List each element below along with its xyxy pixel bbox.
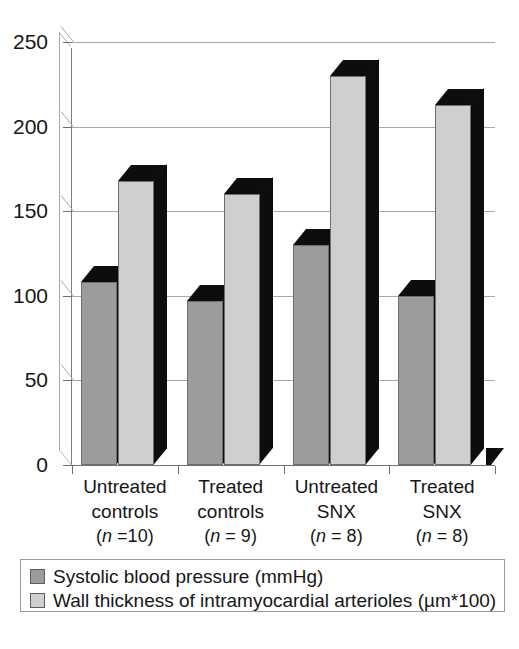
legend-label: Systolic blood pressure (mmHg): [53, 567, 323, 586]
bar-1-untreated-controls: [81, 266, 117, 465]
bar-side-face: [260, 177, 274, 465]
bar-1-untreated-snx: [293, 229, 329, 465]
bar-front-face: [398, 296, 434, 465]
legend-item-2[interactable]: Wall thickness of intramyocardial arteri…: [30, 588, 496, 612]
bar-top-face: [435, 89, 485, 106]
x-category-label-1: Untreatedcontrols(n =10): [72, 474, 178, 549]
x-category-sample-size: (n = 8): [284, 524, 390, 549]
bar-front-face: [187, 301, 223, 465]
x-category-line2: controls: [72, 499, 178, 524]
bar-2-untreated-controls: [118, 165, 154, 465]
bar-top-face: [224, 178, 274, 195]
chart-legend: Systolic blood pressure (mmHg)Wall thick…: [20, 559, 505, 612]
y-tick-label-250: 250: [0, 31, 48, 52]
x-category-sample-size: (n =10): [72, 524, 178, 549]
bar-front-face: [330, 76, 366, 465]
bar-front-face: [224, 194, 260, 465]
bar-1-treated-controls: [187, 285, 223, 465]
bar-2-untreated-snx: [330, 60, 366, 465]
x-category-line1: Untreated: [72, 474, 178, 499]
x-category-line1: Untreated: [284, 474, 390, 499]
plot-area: [72, 42, 495, 465]
legend-label: Wall thickness of intramyocardial arteri…: [53, 591, 496, 610]
bar-top-face: [118, 165, 168, 182]
y-tick-label-200: 200: [0, 116, 48, 137]
x-axis-tick-0: [72, 466, 73, 474]
x-category-label-3: UntreatedSNX(n = 8): [284, 474, 390, 549]
chart-figure: 050100150200250 Untreatedcontrols(n =10)…: [0, 0, 519, 649]
x-axis-end-wedge: [486, 448, 508, 468]
bar-2-treated-snx: [435, 89, 471, 465]
bar-front-face: [293, 245, 329, 465]
y-tick-label-0: 0: [0, 454, 48, 475]
y-tick-label-100: 100: [0, 285, 48, 306]
x-category-line2: controls: [178, 499, 284, 524]
x-category-line1: Treated: [389, 474, 495, 499]
x-category-line1: Treated: [178, 474, 284, 499]
x-category-line2: SNX: [389, 499, 495, 524]
x-category-sample-size: (n = 8): [389, 524, 495, 549]
bar-front-face: [81, 282, 117, 465]
legend-swatch-icon: [30, 569, 45, 584]
legend-swatch-icon: [30, 593, 45, 608]
bar-side-face: [154, 164, 168, 465]
x-category-sample-size: (n = 9): [178, 524, 284, 549]
legend-item-1[interactable]: Systolic blood pressure (mmHg): [30, 564, 323, 588]
bar-1-treated-snx: [398, 280, 434, 465]
y-tick-label-150: 150: [0, 200, 48, 221]
x-category-label-2: Treatedcontrols(n = 9): [178, 474, 284, 549]
bar-top-face: [330, 60, 380, 77]
bar-front-face: [118, 181, 154, 465]
y-tick-label-50: 50: [0, 369, 48, 390]
x-axis-tick-1: [178, 466, 179, 474]
x-category-line2: SNX: [284, 499, 390, 524]
y-axis-back-line: [59, 32, 60, 450]
bar-2-treated-controls: [224, 178, 260, 465]
y-tick-depth-line-250: [59, 26, 76, 43]
x-axis-tick-3: [389, 466, 390, 474]
bar-side-face: [366, 59, 380, 465]
x-category-label-4: TreatedSNX(n = 8): [389, 474, 495, 549]
bar-side-face: [471, 88, 485, 465]
bar-front-face: [435, 105, 471, 465]
x-axis-tick-2: [284, 466, 285, 474]
